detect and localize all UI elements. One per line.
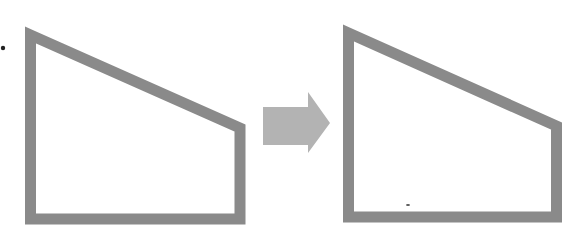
- right-arrow-icon: [263, 92, 330, 153]
- bullet-dot-icon: [1, 46, 5, 50]
- before-trapezoid-shape: [31, 35, 241, 219]
- after-trapezoid-shape: [349, 33, 557, 217]
- stray-mark: [406, 204, 410, 206]
- transformation-diagram: [0, 0, 577, 235]
- diagram-svg: [0, 0, 577, 235]
